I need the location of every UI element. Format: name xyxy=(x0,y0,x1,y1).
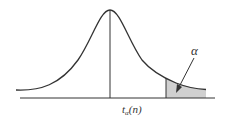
density-curve xyxy=(16,10,206,90)
t-distribution-diagram: α tα(n) xyxy=(0,0,225,121)
critical-value-label: tα(n) xyxy=(122,103,142,117)
tail-area-label: α xyxy=(191,43,199,58)
critical-value-argument: (n) xyxy=(129,103,142,116)
alpha-arrow-shaft xyxy=(179,58,194,87)
